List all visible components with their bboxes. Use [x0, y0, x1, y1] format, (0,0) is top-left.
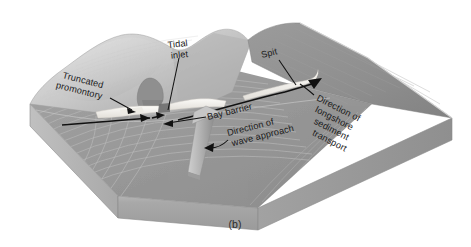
block-diagram-svg: Truncated promontory Tidal inlet Spit Ba… [0, 0, 471, 247]
tidal-inlet-line1: Tidal [167, 38, 188, 50]
label-tidal-inlet: Tidal inlet [167, 38, 189, 61]
tidal-inlet-line2: inlet [170, 49, 189, 61]
coastal-landforms-figure: Truncated promontory Tidal inlet Spit Ba… [0, 0, 471, 247]
figure-caption: (b) [229, 218, 242, 230]
